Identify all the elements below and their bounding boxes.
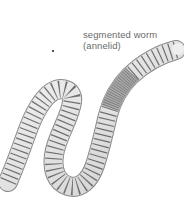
label-line-2: (annelid)	[83, 40, 157, 51]
worm-body	[8, 50, 176, 187]
label-line-1: segmented worm	[83, 29, 157, 40]
stray-mark	[52, 50, 54, 52]
worm-illustration: segmented worm (annelid)	[0, 0, 184, 201]
worm-head	[172, 43, 184, 55]
figure-label: segmented worm (annelid)	[83, 29, 157, 51]
